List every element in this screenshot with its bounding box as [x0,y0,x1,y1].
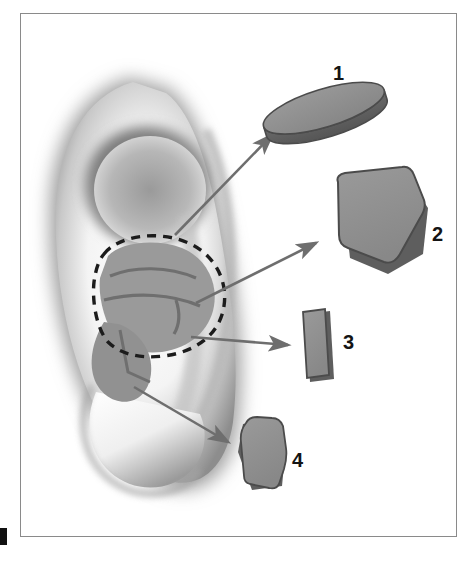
ear-drawing [50,78,242,494]
graft-shape-1 [258,72,393,155]
figure-panel: 1 2 3 4 [0,0,475,561]
graft-label-2: 2 [432,224,443,244]
graft-shape-4 [238,417,286,490]
graft-shape-3 [303,309,334,382]
graft-label-1: 1 [333,63,344,83]
graft-label-4: 4 [292,450,303,470]
ear-cartilage-illustration [0,0,475,561]
graft-label-3: 3 [343,332,354,352]
graft-shape-2 [337,167,428,274]
